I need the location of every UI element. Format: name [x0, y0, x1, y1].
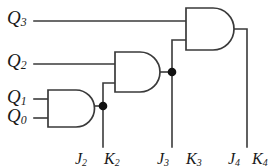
and-gate-1[interactable] — [48, 90, 95, 127]
wire-junction2-to-gate3 — [172, 40, 186, 72]
output-label-j4: J4 — [228, 151, 240, 166]
output-label-k2: K2 — [104, 151, 120, 166]
and-gate-2[interactable] — [115, 52, 160, 92]
input-label-q0: Q0 — [7, 106, 27, 127]
output-label-k3: K3 — [186, 151, 202, 166]
input-label-q3: Q3 — [7, 8, 27, 29]
output-label-j3: J3 — [157, 151, 169, 166]
output-label-k4: K4 — [252, 151, 268, 166]
circuit-canvas — [0, 0, 275, 166]
and-gate-3[interactable] — [186, 8, 234, 50]
input-label-q2: Q2 — [7, 51, 27, 72]
output-label-j2: J2 — [75, 151, 87, 166]
wire-gate3-to-j4k4 — [234, 29, 247, 147]
junction-dot-2 — [168, 68, 177, 77]
logic-circuit-figure: Q3 Q2 Q1 Q0 J2 K2 J3 K3 J4 K4 — [0, 0, 275, 166]
junction-dot-1 — [99, 102, 108, 111]
